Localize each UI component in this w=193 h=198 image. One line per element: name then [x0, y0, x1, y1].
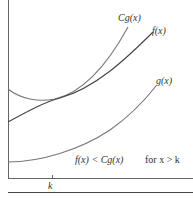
- f-label: f(x): [152, 25, 166, 36]
- cg-label: Cg(x): [118, 12, 141, 23]
- k-label: k: [48, 180, 52, 191]
- f-curve: [8, 32, 153, 122]
- inequality-label: f(x) < Cg(x): [75, 154, 123, 165]
- g-label: g(x): [156, 75, 172, 86]
- condition-label: for x > k: [145, 154, 180, 165]
- g-curve: [8, 86, 156, 162]
- cg-curve: [8, 27, 128, 100]
